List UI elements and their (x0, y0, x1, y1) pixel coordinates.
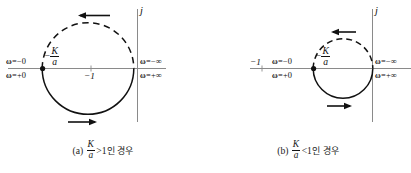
omega-symbol: ω (375, 71, 381, 80)
imaginary-axis-label-b: j (375, 6, 378, 17)
upper-arrow-b (331, 29, 356, 36)
omega-symbol: ω (375, 57, 381, 66)
lower-arrow-b (327, 103, 352, 110)
fraction-denominator: a (50, 57, 58, 67)
caption-rest: 인 경우 (107, 146, 134, 156)
minus-k-over-a-label-a: −Ka (44, 46, 59, 67)
omega-symbol: ω (140, 57, 146, 66)
panel-a: j ω=−0 ω=+0 ω=−∞ ω=+∞ −Ka −1 (a) Ka>1인 경… (0, 0, 206, 173)
locus-lower-solid-b (313, 69, 373, 99)
lower-arrow-a (68, 119, 97, 126)
caption-tag: (b) (277, 145, 288, 156)
k-over-a-fraction: Ka (50, 46, 58, 67)
k-over-a-fraction: Ka (321, 46, 329, 67)
omega-symbol: ω (140, 71, 146, 80)
omega-value: +0 (283, 71, 292, 80)
caption-a: (a) Ka>1인 경우 (0, 140, 206, 160)
omega-value: +0 (17, 71, 26, 80)
omega-symbol: ω (6, 71, 12, 80)
minus-one-label-b: −1 (250, 58, 261, 67)
omega-symbol: ω (272, 71, 278, 80)
omega-plus-infinity-label-a: ω=+∞ (140, 72, 162, 80)
omega-minus-infinity-label-a: ω=−∞ (140, 58, 162, 66)
fraction-numerator: K (87, 140, 95, 151)
caption-relation: <1 (301, 145, 312, 156)
omega-value: −∞ (386, 57, 397, 66)
omega-value: +∞ (386, 71, 397, 80)
minus-one-label-a: −1 (84, 72, 95, 81)
omega-value: −∞ (151, 57, 162, 66)
omega-plus-zero-label-b: ω=+0 (272, 72, 292, 80)
omega-minus-infinity-label-b: ω=−∞ (375, 58, 397, 66)
fraction-numerator: K (292, 140, 300, 151)
figure-root: j ω=−0 ω=+0 ω=−∞ ω=+∞ −Ka −1 (a) Ka>1인 경… (0, 0, 411, 173)
ka-intersection-dot-a (40, 66, 45, 71)
omega-value: +∞ (151, 71, 162, 80)
omega-plus-infinity-label-b: ω=+∞ (375, 72, 397, 80)
caption-b: (b) Ka<1인 경우 (205, 140, 411, 160)
panel-b: j −1 ω=−0 ω=+0 ω=−∞ ω=+∞ −Ka (b) Ka<1인 경… (205, 0, 411, 173)
omega-minus-zero-label-a: ω=−0 (6, 58, 26, 66)
minus-k-over-a-label-b: −Ka (315, 46, 330, 67)
omega-symbol: ω (272, 57, 278, 66)
caption-fraction: Ka (292, 140, 300, 160)
fraction-denominator: a (321, 57, 329, 67)
imaginary-axis-label-a: j (140, 6, 143, 17)
ka-intersection-dot-b (311, 66, 316, 71)
omega-minus-zero-label-b: ω=−0 (272, 58, 292, 66)
fraction-denominator: a (87, 151, 95, 161)
fraction-denominator: a (292, 151, 300, 161)
omega-plus-zero-label-a: ω=+0 (6, 72, 26, 80)
omega-symbol: ω (6, 57, 12, 66)
omega-value: −0 (283, 57, 292, 66)
caption-fraction: Ka (87, 140, 95, 160)
caption-rest: 인 경우 (312, 146, 339, 156)
omega-value: −0 (17, 57, 26, 66)
upper-arrow-a (78, 12, 110, 19)
caption-tag: (a) (73, 145, 84, 156)
caption-relation: >1 (96, 145, 107, 156)
